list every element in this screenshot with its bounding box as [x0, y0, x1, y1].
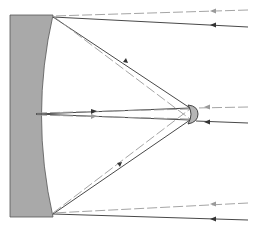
primary-mirror — [10, 15, 53, 217]
optics-diagram — [0, 0, 264, 229]
reflected-arrow-icons — [91, 58, 128, 167]
